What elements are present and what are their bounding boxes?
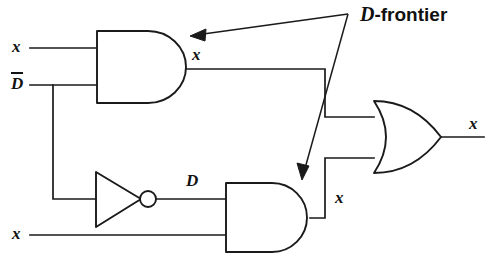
dfrontier-annotation-label: D-frontier [360,4,447,24]
dfrontier-arrowhead-top-icon [190,29,206,41]
dfrontier-annotation-rest: -frontier [374,4,447,25]
label-input-x-top: x [12,38,21,55]
inverter-gate [96,172,141,227]
label-input-x-bottom: x [12,225,21,242]
dfrontier-arrowhead-bottom-icon [297,163,309,180]
wire-and-top-to-or [185,69,374,117]
dfrontier-pointer-line-top [196,14,348,35]
label-and-top-output: x [192,46,201,63]
label-inverter-output: D [186,172,198,189]
dfrontier-pointer-line-bottom [304,14,348,172]
and-gate-bottom [226,183,307,252]
label-input-dbar-text: D [11,72,23,92]
or-gate [374,101,441,173]
label-or-output: x [469,115,478,132]
label-and-bottom-output: x [335,189,344,206]
inverter-bubble-icon [140,191,156,207]
and-gate-top [97,31,186,103]
label-input-dbar: D [11,72,23,92]
dfrontier-annotation-italic: D [360,3,374,25]
wire-dbar-branch-to-inverter [53,85,96,199]
circuit-schematic-canvas [0,0,495,269]
circuit-diagram-figure: x D x x D x x D-frontier [0,0,495,269]
